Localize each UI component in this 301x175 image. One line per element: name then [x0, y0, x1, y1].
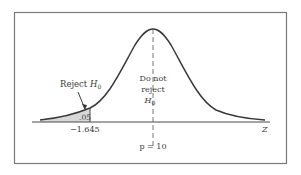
mean-label: p = 10 [139, 142, 166, 151]
z-axis-label: Z [261, 125, 268, 134]
reject-label: Reject H0 [60, 79, 101, 90]
alpha-label: .05 [79, 113, 91, 122]
critical-value-label: −1.645 [70, 125, 100, 134]
do-not-reject-line1: Do not [140, 74, 168, 83]
normal-curve-diagram: Reject H0 .05 −1.645 Do not reject H0 Z … [0, 0, 301, 175]
do-not-reject-h0: H0 [144, 96, 156, 106]
do-not-reject-line2: reject [141, 85, 165, 94]
